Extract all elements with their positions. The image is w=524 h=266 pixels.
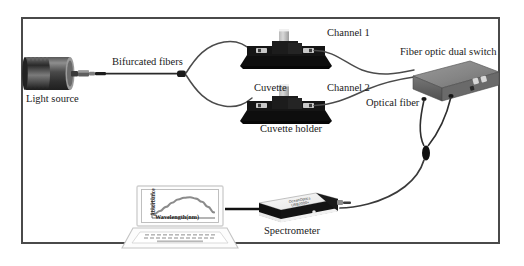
- label-bifurcated-fibers: Bifurcated fibers: [112, 57, 183, 68]
- label-light-source: Light source: [26, 94, 79, 105]
- label-channel-2: Channel 2: [327, 83, 370, 94]
- chart-xlabel: Wavelength(nm): [155, 213, 199, 220]
- label-cuvette-holder: Cuvette holder: [260, 124, 322, 135]
- chart-ylabel: Absorbance: [150, 188, 156, 216]
- label-channel-1: Channel 1: [327, 28, 370, 39]
- figure-root: Light source Bifurcated fibers Channel 1…: [0, 0, 524, 266]
- label-cuvette: Cuvette: [254, 83, 287, 94]
- label-optical-fiber: Optical fiber: [366, 98, 419, 109]
- label-fiber-optic-dual-switch: Fiber optic dual switch: [400, 47, 497, 58]
- label-spectrometer: Spectrometer: [264, 226, 320, 237]
